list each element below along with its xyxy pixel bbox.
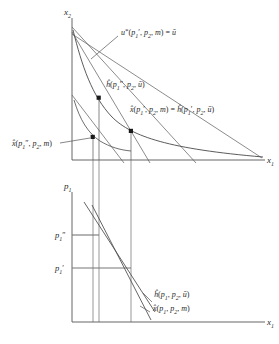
- upper-x-axis-label: x1: [266, 155, 274, 167]
- upper-panel: x2 x1 u*(p1′, p2, m) = ū ĥ(p1″, p2, ū…: [11, 7, 274, 167]
- lower-panel: p1 x1 p1″ p1′ ĥ(p1, p2, ū) x̂(p1, p2, …: [54, 181, 274, 329]
- panel-connector-lines: [93, 160, 131, 322]
- tick-label-p1-doubleprime: p1″: [54, 230, 66, 242]
- label-equilibrium-bundle: x̂(p1′, p2, m) = ĥ(p1′, p2, ū): [129, 104, 214, 116]
- economics-figure: x2 x1 u*(p1′, p2, m) = ū ĥ(p1″, p2, ū…: [0, 0, 279, 344]
- tick-label-p1-prime: p1′: [54, 263, 64, 275]
- dot-equilibrium-bundle: [129, 129, 133, 133]
- upper-y-axis-label: x2: [63, 7, 71, 19]
- indifference-curve-ubar: [73, 30, 263, 157]
- figure-canvas: x2 x1 u*(p1′, p2, m) = ū ĥ(p1″, p2, ū…: [0, 0, 279, 344]
- dot-hicksian-bundle: [97, 96, 101, 100]
- dot-marshallian-bundle: [91, 135, 95, 139]
- hicksian-demand-curve: [84, 202, 155, 312]
- budget-line-p1-prime: [72, 27, 196, 163]
- label-hicksian-bundle: ĥ(p1″, p2, ū): [106, 79, 145, 91]
- lower-y-axis-label: p1: [63, 181, 72, 193]
- budget-line-original-p1-doubleprime: [72, 95, 124, 163]
- marshallian-demand-curve: [92, 205, 151, 320]
- label-marshallian-bundle: x̂(p1″, p2, m): [11, 139, 52, 150]
- budget-line-compensated-p1-doubleprime: [72, 32, 150, 163]
- lower-x-axis-label: x1: [266, 317, 274, 329]
- label-utility-level: u*(p1′, p2, m) = ū: [121, 27, 176, 39]
- leader-line-marshallian-demand: [140, 306, 150, 312]
- label-marshallian-demand: x̂(p1, p2, m): [152, 304, 190, 315]
- label-hicksian-demand: ĥ(p1, p2, ū): [154, 289, 190, 301]
- leader-line-marshallian: [60, 138, 90, 143]
